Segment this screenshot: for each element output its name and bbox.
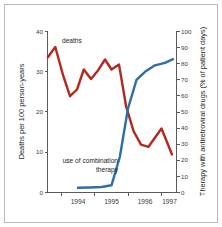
right-tick-label-50: 50: [181, 108, 188, 115]
combination-therapy-label-line2: therapy: [96, 166, 119, 174]
right-tick-label-30: 30: [181, 140, 188, 147]
right-tick-label-100: 100: [181, 28, 192, 35]
right-tick-label-0: 0: [181, 189, 185, 196]
right-axis-title: Therapy with antiretroviral drugs (% of …: [198, 27, 207, 196]
right-tick-label-80: 80: [181, 60, 188, 67]
right-tick-label-20: 20: [181, 156, 188, 163]
x-tick-label-1994: 1994: [71, 198, 86, 205]
left-tick-label-30: 30: [36, 68, 43, 75]
right-axis-ticks: 0 10 20 30 40 50 60 70 80 90 100: [177, 28, 192, 196]
right-tick-label-10: 10: [181, 173, 188, 180]
left-tick-label-0: 0: [40, 189, 44, 196]
deaths-line: [48, 47, 172, 155]
x-tick-label-1997: 1997: [162, 198, 177, 205]
x-tick-label-1996: 1996: [138, 198, 153, 205]
combination-therapy-label-line1: use of combination: [63, 157, 119, 164]
right-tick-label-70: 70: [181, 76, 188, 83]
right-tick-label-40: 40: [181, 124, 188, 131]
x-axis-ticks: 1994 1995 1996 1997: [61, 193, 177, 206]
left-axis-title: Deaths per 100 person-years: [17, 63, 26, 159]
x-tick-label-1995: 1995: [104, 198, 119, 205]
right-tick-label-90: 90: [181, 44, 188, 51]
left-axis-ticks: 0 10 20 30 40: [36, 28, 47, 196]
right-tick-label-60: 60: [181, 92, 188, 99]
left-tick-label-10: 10: [36, 148, 43, 155]
left-tick-label-40: 40: [36, 28, 43, 35]
line-chart: 0 10 20 30 40 0 10 20 30 40 50: [0, 0, 222, 227]
chart-figure: 0 10 20 30 40 0 10 20 30 40 50: [0, 0, 222, 227]
deaths-series-label: deaths: [62, 37, 83, 44]
left-tick-label-20: 20: [36, 108, 43, 115]
